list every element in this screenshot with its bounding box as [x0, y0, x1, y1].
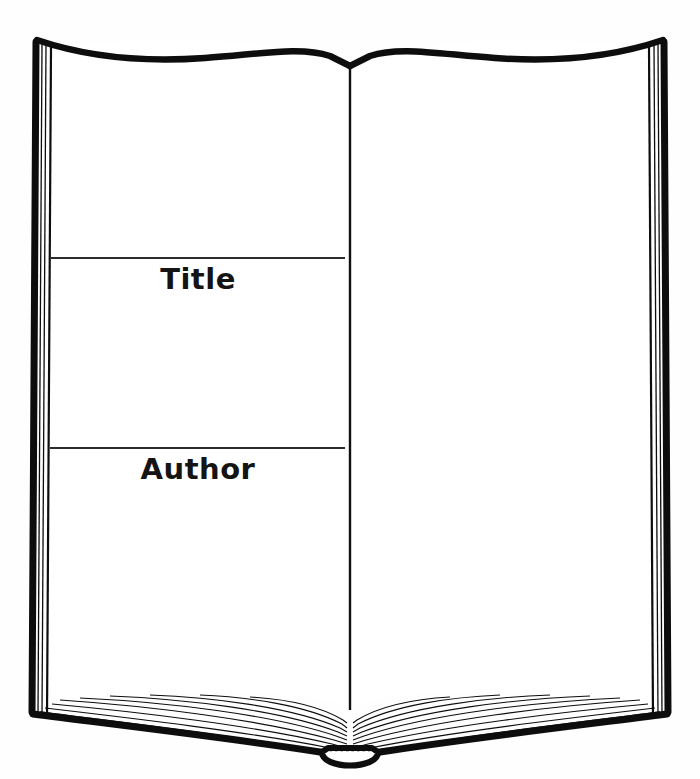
title-field-label: Title — [48, 262, 348, 296]
open-book-worksheet: Title Author — [0, 0, 700, 779]
left-page-surface — [48, 40, 350, 706]
right-leaf-line-2 — [654, 45, 658, 716]
spine-tab — [322, 748, 378, 766]
right-page-surface — [350, 40, 652, 706]
left-leaf-line-2 — [42, 45, 46, 716]
bottom-page-fan-left — [33, 695, 347, 757]
bottom-page-fan-right — [353, 695, 667, 757]
left-cover-outer-stroke — [32, 42, 36, 712]
author-field-label: Author — [48, 452, 348, 486]
open-book-illustration — [0, 0, 700, 779]
right-cover-outer-stroke — [664, 42, 668, 712]
